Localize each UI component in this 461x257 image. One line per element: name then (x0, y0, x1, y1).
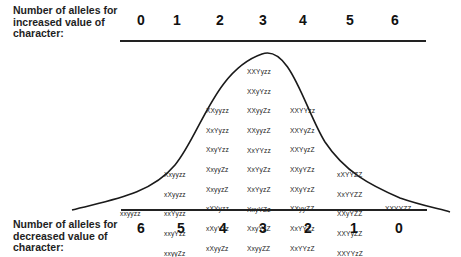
genotype-column-5: xXYYZZ XxYYZZ XXyYZZ XXYyZZ XXYYzZ XXYYZ… (337, 159, 363, 257)
genotype: XxYYZZ (337, 192, 363, 199)
bottom-number-3: 3 (253, 220, 273, 236)
genotype: XxYYzz (247, 148, 271, 155)
genotype: XXYYzz (290, 108, 315, 115)
bottom-number-4: 4 (213, 220, 233, 236)
genotype: xxyyzz (120, 211, 141, 218)
genotype: XXyYzz (247, 89, 271, 96)
genotype: XxYyZz (247, 167, 271, 174)
genotype: XXYYzZ (337, 251, 363, 257)
genotype: XXyyZz (247, 108, 271, 115)
genotype: XXyyzz (206, 108, 229, 115)
genotype: XXyYzZ (290, 187, 315, 194)
genotype-column-1: Xxyyzz xXyyzz xxYyzz xxyYzz xxyyZz xxyyz… (164, 159, 186, 257)
genotype: XXYyzz (247, 69, 271, 76)
bottom-axis-label: Number of alleles for decreased value of… (13, 219, 123, 254)
genotype: XxyyZZ (247, 246, 271, 253)
genotype: xxyyZz (164, 251, 186, 257)
genotype: xXyyzz (164, 192, 186, 199)
genotype: XXyYZZ (337, 211, 363, 218)
genotype: XxYyzz (206, 128, 229, 135)
genotype: Xxyyzz (164, 172, 186, 179)
bottom-number-1: 1 (344, 220, 364, 236)
bottom-number-5: 5 (171, 220, 191, 236)
genotype: XXYyzZ (290, 147, 315, 154)
genotype: XXyYZz (290, 167, 315, 174)
genotype: XXYyZz (290, 128, 315, 135)
bottom-number-2: 2 (298, 220, 318, 236)
genotype-column-6: XXYYZZ (385, 193, 412, 219)
bottom-number-0: 0 (389, 220, 409, 236)
genotype: XxYYzZ (290, 246, 315, 253)
genotype: xXYYZZ (337, 172, 363, 179)
genotype: xXyyZz (206, 246, 229, 253)
genotype: XXyyzZ (247, 128, 271, 135)
genotype: xxYyzz (164, 211, 186, 218)
genotype: XxyYzz (206, 147, 229, 154)
bottom-number-6: 6 (131, 220, 151, 236)
genotype: XxyyzZ (206, 187, 229, 194)
genotype: XxYyzZ (247, 187, 271, 194)
genotype: XxyyZz (206, 167, 229, 174)
bottom-axis-line (121, 209, 427, 211)
